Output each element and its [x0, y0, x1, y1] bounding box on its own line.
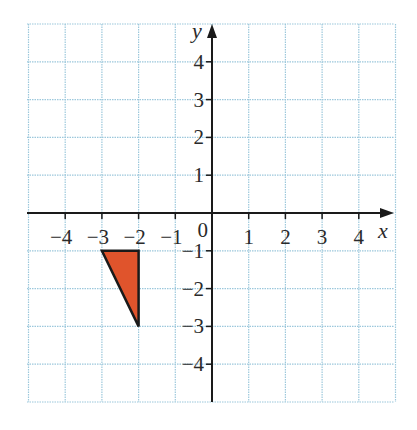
x-tick-label: −2: [123, 225, 145, 249]
x-tick-label: 2: [280, 225, 291, 249]
y-tick-label: −2: [182, 277, 204, 301]
y-tick-label: 4: [194, 50, 205, 74]
y-tick-label: 3: [194, 88, 205, 112]
coordinate-plane: −4−3−2−112344321−1−2−3−40xy: [0, 0, 417, 430]
x-tick-label: −1: [160, 225, 182, 249]
y-tick-label: −1: [182, 239, 204, 263]
y-axis-arrow-icon: [207, 24, 217, 38]
tick-labels: −4−3−2−112344321−1−2−3−40xy: [50, 18, 388, 376]
y-tick-label: 1: [194, 163, 205, 187]
x-axis-arrow-icon: [380, 208, 394, 218]
axes: [27, 24, 394, 402]
x-axis-label: x: [377, 218, 388, 243]
x-tick-label: −4: [50, 225, 73, 249]
x-tick-label: 4: [354, 225, 365, 249]
y-tick-label: −4: [182, 352, 205, 376]
x-tick-label: −3: [87, 225, 109, 249]
y-tick-label: −3: [182, 314, 204, 338]
origin-label: 0: [198, 218, 209, 242]
y-tick-label: 2: [194, 125, 205, 149]
y-axis-label: y: [190, 18, 202, 43]
x-tick-label: 3: [317, 225, 328, 249]
x-tick-label: 1: [243, 225, 254, 249]
